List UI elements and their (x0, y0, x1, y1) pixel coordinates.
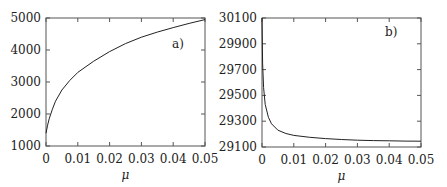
y-tick-label: 4000 (10, 43, 41, 57)
figure: 00.010.020.030.040.051000200030004000500… (0, 0, 447, 187)
x-tick-label: 0 (42, 152, 50, 166)
x-tick-label: 0.03 (128, 152, 155, 166)
y-tick-label: 29900 (219, 37, 257, 51)
y-tick-label: 30100 (219, 11, 257, 25)
y-tick-label: 29300 (219, 114, 257, 128)
y-tick-label: 29100 (219, 140, 257, 154)
x-tick-label: 0.04 (376, 153, 403, 167)
panel-label: a) (172, 37, 184, 51)
chart-panel-a: 00.010.020.030.040.051000200030004000500… (10, 11, 218, 182)
y-tick-label: 2000 (10, 107, 41, 121)
y-tick-label: 29500 (219, 88, 257, 102)
x-tick-label: 0.01 (64, 152, 91, 166)
panel-label: b) (385, 25, 397, 39)
x-axis-label: μ (122, 168, 130, 182)
x-tick-label: 0.02 (96, 152, 123, 166)
x-axis-label: μ (338, 169, 346, 183)
x-tick-label: 0.02 (312, 153, 339, 167)
x-tick-label: 0.03 (344, 153, 371, 167)
x-tick-label: 0.04 (160, 152, 187, 166)
y-tick-label: 29700 (219, 63, 257, 77)
x-tick-label: 0.01 (280, 153, 307, 167)
y-tick-label: 5000 (10, 11, 41, 25)
chart-panel-b: 00.010.020.030.040.052910029300295002970… (219, 11, 435, 183)
x-tick-label: 0.05 (192, 152, 219, 166)
y-tick-label: 3000 (10, 75, 41, 89)
y-tick-label: 1000 (10, 139, 41, 153)
x-tick-label: 0 (258, 153, 266, 167)
x-tick-label: 0.05 (408, 153, 435, 167)
